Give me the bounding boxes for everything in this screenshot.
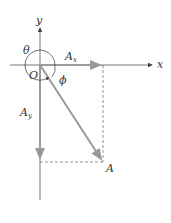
ay-label: Ay [20,107,32,120]
vector-a-arrow [40,65,101,159]
y-axis-label: y [36,15,42,26]
ax-label-sub: x [73,56,77,64]
theta-label: θ [23,45,30,56]
x-axis-label: x [157,59,163,70]
phi-arc [52,65,55,77]
ay-label-sub: y [28,112,32,120]
vector-tip-label: A [106,163,114,174]
phi-label: ϕ [59,75,67,86]
ay-label-main: A [20,106,28,119]
origin-label: O [29,70,38,81]
ax-label: Ax [65,51,77,64]
ax-label-main: A [65,50,73,63]
